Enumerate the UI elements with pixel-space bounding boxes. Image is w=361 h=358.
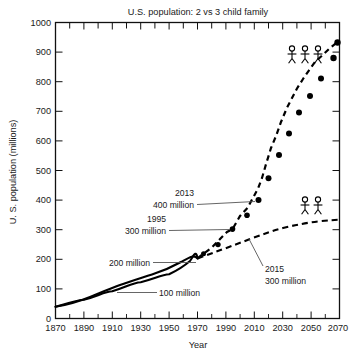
stick-figure-icon [314, 46, 323, 63]
annotation-2015-value: 300 million [265, 276, 306, 286]
y-axis-label: U. S. population (millions) [8, 120, 18, 225]
x-axis-label: Year [189, 340, 208, 350]
x-tick-1950: 1950 [159, 323, 179, 333]
annotation-2013-value: 400 million [153, 200, 194, 210]
data-point [286, 131, 292, 137]
data-point [256, 197, 262, 203]
annotation-1995: 1995 300 million [125, 214, 229, 236]
y-tick-1000: 1000 [31, 18, 51, 28]
y-tick-400: 400 [36, 195, 51, 205]
annotation-2015-year: 2015 [265, 264, 284, 274]
series-3-child-family [198, 43, 337, 259]
pictogram-two-child-family [301, 197, 323, 214]
y-tick-600: 600 [36, 136, 51, 146]
chart-title: U.S. population: 2 vs 3 child family [128, 7, 269, 17]
y-tick-300: 300 [36, 225, 51, 235]
x-axis-ticks [56, 312, 340, 319]
y-tick-200: 200 [36, 254, 51, 264]
x-tick-2070: 2070 [328, 323, 348, 333]
pictogram-three-child-family [288, 46, 323, 63]
y-tick-800: 800 [36, 77, 51, 87]
chart-canvas: U.S. population: 2 vs 3 child family 0 1… [0, 0, 361, 358]
annotation-200m-label: 200 million [109, 258, 150, 268]
x-axis-top-ticks [70, 23, 326, 30]
annotation-2013-leader [197, 202, 255, 205]
x-tick-1930: 1930 [130, 323, 150, 333]
stick-figure-icon [288, 46, 297, 63]
y-tick-100: 100 [36, 284, 51, 294]
stick-figure-icon [314, 197, 323, 214]
y-tick-700: 700 [36, 106, 51, 116]
data-point [276, 152, 282, 158]
data-point [318, 76, 324, 82]
annotation-100-million: 100 million [117, 288, 200, 298]
x-tick-1870: 1870 [45, 323, 65, 333]
data-point [307, 93, 313, 99]
annotation-2015-leader [249, 239, 263, 266]
annotation-2013-year: 2013 [175, 188, 194, 198]
x-tick-2050: 2050 [301, 323, 321, 333]
annotation-2015: 2015 300 million [249, 239, 306, 286]
data-point [215, 242, 220, 247]
data-point [266, 175, 272, 181]
plot-frame [56, 23, 340, 319]
data-point [334, 39, 340, 45]
y-axis-right-ticks [333, 52, 340, 289]
data-point [244, 212, 250, 218]
x-tick-2010: 2010 [244, 323, 264, 333]
data-point [296, 110, 302, 116]
stick-figure-icon [301, 46, 310, 63]
x-tick-2030: 2030 [272, 323, 292, 333]
annotation-1995-year: 1995 [147, 214, 166, 224]
y-axis-ticks [56, 23, 63, 319]
x-tick-1970: 1970 [187, 323, 207, 333]
y-tick-900: 900 [36, 47, 51, 57]
annotation-1995-value: 300 million [125, 226, 166, 236]
stick-figure-icon [301, 197, 310, 214]
annotation-1995-leader [169, 230, 229, 231]
population-chart: U.S. population: 2 vs 3 child family 0 1… [0, 0, 361, 358]
y-axis-tick-labels: 0 100 200 300 400 500 600 700 800 900 10… [31, 18, 51, 324]
data-point [230, 226, 236, 232]
y-tick-0: 0 [46, 314, 51, 324]
annotation-100m-label: 100 million [159, 288, 200, 298]
data-point [330, 55, 336, 61]
annotation-2013: 2013 400 million [153, 188, 255, 210]
x-tick-1990: 1990 [216, 323, 236, 333]
data-point [201, 251, 206, 256]
x-axis-tick-labels: 1870 1890 1910 1930 1950 1970 1990 2010 … [45, 323, 348, 333]
x-tick-1910: 1910 [102, 323, 122, 333]
x-tick-1890: 1890 [74, 323, 94, 333]
y-tick-500: 500 [36, 166, 51, 176]
